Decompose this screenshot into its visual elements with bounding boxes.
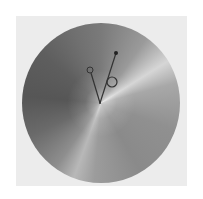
vertex-point-icon (99, 102, 101, 104)
figure-canvas (0, 0, 203, 199)
left-arm-handle-icon[interactable] (87, 67, 93, 73)
right-arm-line (100, 53, 116, 103)
left-arm-line (91, 73, 100, 103)
right-arm-tip-dot-icon[interactable] (114, 51, 118, 55)
right-arm-mid-handle-icon[interactable] (107, 77, 117, 87)
vector-overlay (0, 0, 203, 199)
